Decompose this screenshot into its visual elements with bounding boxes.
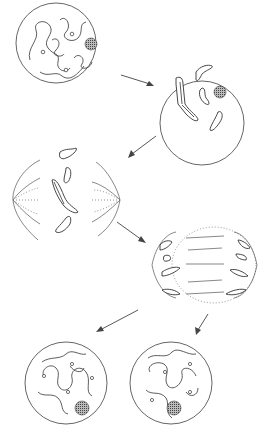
arrow-prophase-to-metaphase	[128, 136, 156, 158]
metaphase-spindle	[13, 148, 120, 240]
arrow-anaphase-to-daughter-2	[195, 314, 208, 335]
nucleolus	[75, 401, 89, 415]
arrow-anaphase-to-daughter-1	[96, 310, 138, 332]
arrow-interphase-to-prophase	[121, 75, 154, 86]
arrow-metaphase-to-anaphase	[117, 222, 146, 243]
daughter-cell-2	[130, 342, 212, 424]
prophase-cell	[160, 65, 244, 165]
anaphase-cell	[152, 227, 257, 303]
daughter-cell-1	[25, 342, 107, 424]
nucleolus	[214, 86, 226, 98]
nucleolus	[167, 401, 181, 415]
interphase-cell	[16, 3, 97, 83]
mitosis-diagram	[0, 0, 261, 437]
nucleolus	[85, 38, 97, 50]
